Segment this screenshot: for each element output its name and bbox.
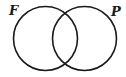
set-p-circle [53, 7, 117, 71]
set-p-label: P [111, 5, 121, 18]
set-f-label: F [9, 4, 18, 17]
set-f-circle [14, 7, 78, 71]
venn-diagram [0, 0, 126, 77]
